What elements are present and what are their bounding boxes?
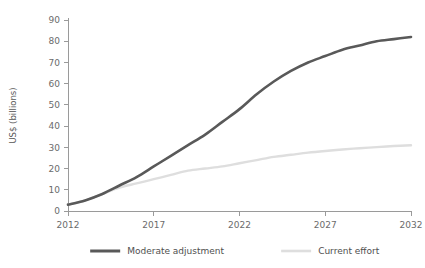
- y-tick-label: 70: [49, 58, 61, 68]
- x-tick-label: 2022: [228, 220, 251, 230]
- y-tick-label: 60: [49, 79, 61, 89]
- legend-label-1: Current effort: [318, 246, 380, 256]
- y-tick-label: 10: [49, 185, 61, 195]
- x-tick-label: 2027: [314, 220, 337, 230]
- y-axis-title: US$ (billions): [8, 87, 18, 143]
- y-tick-label: 20: [49, 164, 61, 174]
- series-line-current-effort: [68, 145, 411, 204]
- y-tick-label: 80: [49, 36, 61, 46]
- series-line-moderate-adjustment: [68, 37, 411, 205]
- y-tick-label: 40: [49, 121, 61, 131]
- y-tick-label: 90: [49, 15, 61, 25]
- y-tick-label: 30: [49, 143, 61, 153]
- x-tick-label: 2032: [400, 220, 423, 230]
- chart-canvas: 010203040506070809020122017202220272032U…: [0, 0, 425, 268]
- y-tick-label: 50: [49, 100, 61, 110]
- y-tick-label: 0: [54, 206, 60, 216]
- x-tick-label: 2012: [57, 220, 80, 230]
- x-tick-label: 2017: [142, 220, 165, 230]
- legend-label-0: Moderate adjustment: [127, 246, 224, 256]
- line-chart: 010203040506070809020122017202220272032U…: [0, 0, 425, 268]
